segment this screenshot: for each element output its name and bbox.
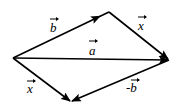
svg-text:x: x <box>137 18 144 33</box>
vector-a <box>13 58 168 60</box>
vector-x-lower <box>13 58 70 101</box>
vector-neg-b <box>72 60 169 101</box>
label-neg-b: -b <box>126 78 140 95</box>
label-x-lower: x <box>26 79 36 96</box>
label-x-upper: x <box>137 15 147 33</box>
svg-text:-b: -b <box>126 80 137 95</box>
svg-text:b: b <box>50 20 57 35</box>
label-b: b <box>50 17 59 35</box>
svg-text:x: x <box>26 81 33 96</box>
label-a: a <box>89 39 98 58</box>
svg-text:a: a <box>89 43 96 58</box>
vector-diagram: b x a x -b <box>0 0 183 105</box>
